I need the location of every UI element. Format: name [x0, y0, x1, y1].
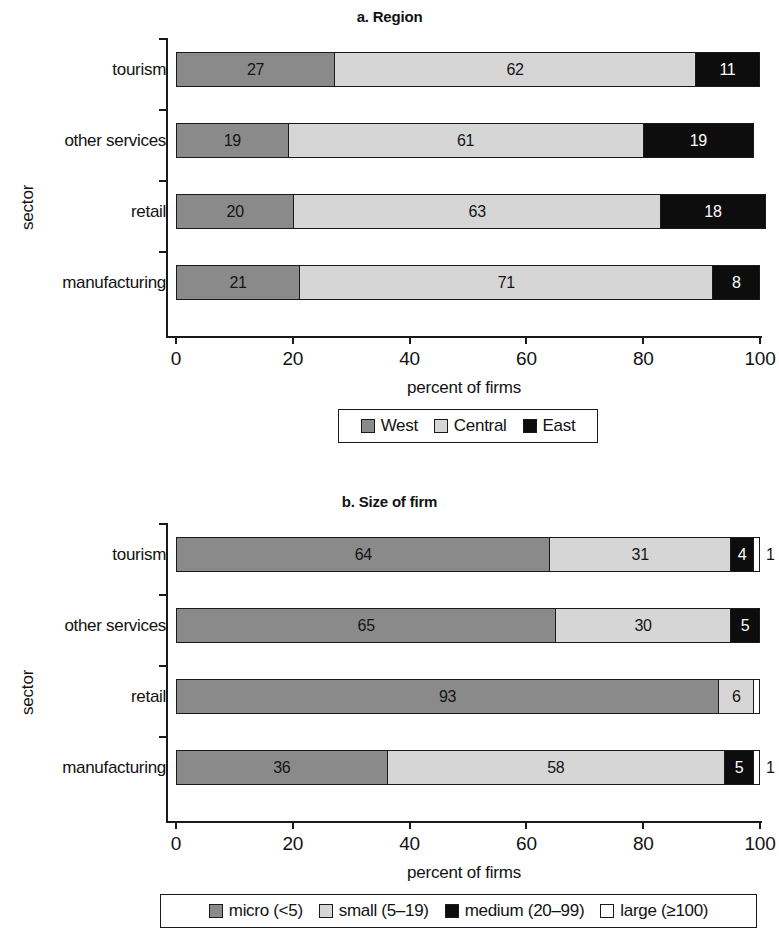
bar-segment: 5 [730, 609, 759, 642]
x-axis-tick [292, 336, 294, 344]
x-axis-tick-label: 0 [146, 348, 206, 370]
legend-item-label: small (5–19) [339, 901, 429, 921]
bar-segment [753, 538, 759, 571]
y-axis-tick [159, 523, 167, 525]
panel-a-legend: WestCentralEast [338, 409, 598, 443]
bar-segment-value-label: 27 [247, 62, 264, 78]
legend-item-label: medium (20–99) [465, 901, 585, 921]
bar-segment: 27 [177, 53, 334, 86]
x-axis-tick-label: 100 [730, 833, 779, 855]
legend-item: East [523, 416, 576, 436]
x-axis-tick-label: 60 [496, 833, 556, 855]
bar-segment-value-label: 62 [506, 62, 523, 78]
x-axis-tick-label: 0 [146, 833, 206, 855]
x-axis-tick [642, 336, 644, 344]
bar-segment: 19 [643, 124, 754, 157]
bar-segment-value-label: 6 [732, 689, 741, 705]
stacked-bar: 21718 [176, 265, 760, 300]
bar-segment: 36 [177, 751, 387, 784]
stacked-bar: 196119 [176, 123, 754, 158]
panel-a-y-axis-line [166, 38, 168, 336]
legend-item-label: large (≥100) [620, 901, 708, 921]
y-axis-tick [159, 180, 167, 182]
panel-b-title: b. Size of firm [0, 493, 779, 510]
bar-segment: 4 [730, 538, 753, 571]
bar-segment: 65 [177, 609, 555, 642]
chart-panel-region: a. Region sector percent of firms 020406… [0, 0, 779, 465]
bar-segment: 61 [288, 124, 643, 157]
bar-segment: 58 [387, 751, 725, 784]
panel-a-y-axis-title: sector [18, 185, 38, 230]
stacked-bar: 936 [176, 679, 760, 714]
bar-segment: 5 [724, 751, 753, 784]
x-axis-tick-label: 80 [613, 348, 673, 370]
bar-segment-value-label: 71 [498, 275, 515, 291]
bar-segment: 18 [660, 195, 765, 228]
x-axis-tick [759, 336, 761, 344]
legend-swatch-icon [361, 419, 375, 433]
bar-segment-value-label: 65 [358, 618, 375, 634]
bar-segment: 62 [334, 53, 695, 86]
stacked-bar: 64314 [176, 537, 760, 572]
legend-item-label: East [543, 416, 576, 436]
bar-segment-value-label: 93 [439, 689, 456, 705]
legend-item-label: Central [454, 416, 507, 436]
bar-segment: 71 [299, 266, 712, 299]
bar-segment: 19 [177, 124, 288, 157]
bar-segment: 64 [177, 538, 549, 571]
x-axis-tick-label: 40 [380, 348, 440, 370]
x-axis-tick [759, 821, 761, 829]
bar-segment: 11 [695, 53, 759, 86]
stacked-bar: 276211 [176, 52, 760, 87]
y-axis-category-label: retail [131, 202, 166, 222]
legend-item: small (5–19) [319, 901, 429, 921]
y-axis-category-label: tourism [112, 545, 166, 565]
bar-segment-value-label: 5 [741, 618, 750, 634]
bar-segment-value-label: 18 [704, 204, 721, 220]
y-axis-category-label: other services [64, 131, 166, 151]
x-axis-tick-label: 80 [613, 833, 673, 855]
y-axis-category-label: other services [64, 616, 166, 636]
bar-segment-value-label: 64 [355, 547, 372, 563]
stacked-bar: 65305 [176, 608, 760, 643]
x-axis-tick-label: 20 [263, 348, 323, 370]
bar-segment-value-label: 61 [457, 133, 474, 149]
bar-segment: 20 [177, 195, 293, 228]
legend-swatch-icon [434, 419, 448, 433]
legend-swatch-icon [445, 904, 459, 918]
bar-segment-value-label: 63 [469, 204, 486, 220]
legend-item-label: West [381, 416, 418, 436]
panel-a-x-axis-title: percent of firms [166, 378, 762, 398]
x-axis-tick-label: 60 [496, 348, 556, 370]
bar-segment: 30 [555, 609, 730, 642]
bar-segment-value-label: 19 [224, 133, 241, 149]
legend-swatch-icon [523, 419, 537, 433]
y-axis-tick [159, 109, 167, 111]
legend-swatch-icon [209, 904, 223, 918]
stacked-bar: 206318 [176, 194, 766, 229]
legend-swatch-icon [600, 904, 614, 918]
legend-item: micro (<5) [209, 901, 303, 921]
legend-item: medium (20–99) [445, 901, 585, 921]
bar-segment [753, 751, 759, 784]
y-axis-category-label: manufacturing [62, 758, 166, 778]
y-axis-tick [159, 736, 167, 738]
bar-segment-value-label: 36 [273, 760, 290, 776]
bar-outside-value-label: 1 [766, 759, 775, 777]
y-axis-tick [159, 38, 167, 40]
bar-segment: 6 [718, 680, 753, 713]
bar-segment-value-label: 4 [738, 547, 747, 563]
x-axis-tick [292, 821, 294, 829]
stacked-bar: 36585 [176, 750, 760, 785]
x-axis-tick [409, 821, 411, 829]
panel-b-legend: micro (<5)small (5–19)medium (20–99)larg… [160, 894, 757, 928]
y-axis-tick [159, 251, 167, 253]
x-axis-tick-label: 20 [263, 833, 323, 855]
panel-a-x-axis-line [166, 336, 762, 338]
bar-segment-value-label: 20 [227, 204, 244, 220]
bar-segment-value-label: 11 [719, 62, 735, 78]
panel-b-x-axis-line [166, 821, 762, 823]
y-axis-category-label: tourism [112, 60, 166, 80]
y-axis-category-label: retail [131, 687, 166, 707]
x-axis-tick [642, 821, 644, 829]
